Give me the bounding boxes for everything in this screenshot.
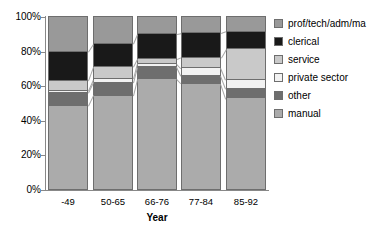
legend-item[interactable]: service [274,52,320,66]
bar-segment[interactable] [181,16,221,33]
bar-segment[interactable] [48,51,88,81]
bar-segment[interactable] [181,32,221,57]
legend-item[interactable]: manual [274,106,321,120]
x-axis-title: Year [46,212,268,224]
stacked-bar-chart: 0%20%40%60%80%100% -4950-6566-7677-8485-… [0,0,389,242]
legend-swatch-icon [274,55,283,64]
y-axis-tick [41,17,45,18]
bar-segment[interactable] [93,82,133,96]
bar-segment[interactable] [137,66,177,79]
bar-segment[interactable] [226,79,266,89]
y-axis-tick [41,86,45,87]
bar-segment[interactable] [93,16,133,44]
bar-column[interactable] [181,17,221,190]
bar-segment[interactable] [226,97,266,190]
bar-segment[interactable] [181,75,221,84]
legend-label: private sector [288,72,348,83]
y-axis-label: 0% [3,185,41,195]
x-axis-label: 85-92 [218,196,274,207]
legend-label: prof/tech/adm/ma [288,18,366,29]
legend-item[interactable]: clerical [274,34,319,48]
bar-segment[interactable] [93,95,133,190]
bar-segment[interactable] [48,16,88,52]
bar-segment[interactable] [93,66,133,79]
bar-segment[interactable] [226,31,266,49]
bar-segment[interactable] [181,67,221,76]
bar-segment[interactable] [137,33,177,59]
bar-segment[interactable] [137,78,177,190]
bar-segment[interactable] [48,92,88,106]
y-axis-tick [41,121,45,122]
y-axis-tick [41,52,45,53]
legend-item[interactable]: prof/tech/adm/ma [274,16,366,30]
bar-segment[interactable] [48,80,88,91]
legend-swatch-icon [274,73,283,82]
y-axis-label: 60% [3,81,41,91]
legend-item[interactable]: other [274,88,311,102]
legend-label: clerical [288,36,319,47]
plot-area [46,17,268,190]
bar-segment[interactable] [181,83,221,190]
bar-column[interactable] [137,17,177,190]
bar-segment[interactable] [226,48,266,80]
bar-column[interactable] [48,17,88,190]
y-axis-label: 80% [3,47,41,57]
y-axis-tick [41,155,45,156]
bar-segment[interactable] [181,57,221,68]
bar-segment[interactable] [226,88,266,99]
legend-swatch-icon [274,91,283,100]
y-axis-label: 40% [3,116,41,126]
legend-swatch-icon [274,37,283,46]
legend-swatch-icon [274,19,283,28]
bar-segment[interactable] [226,16,266,32]
legend-label: service [288,54,320,65]
bar-segment[interactable] [137,16,177,34]
bar-segment[interactable] [93,43,133,67]
y-axis-tick [41,190,45,191]
legend-label: other [288,90,311,101]
bar-column[interactable] [93,17,133,190]
y-axis-label: 100% [3,12,41,22]
legend-label: manual [288,108,321,119]
bar-segment[interactable] [48,105,88,190]
legend-swatch-icon [274,109,283,118]
y-axis-label: 20% [3,150,41,160]
x-axis-line [45,190,269,191]
legend-item[interactable]: private sector [274,70,348,84]
bar-column[interactable] [226,17,266,190]
